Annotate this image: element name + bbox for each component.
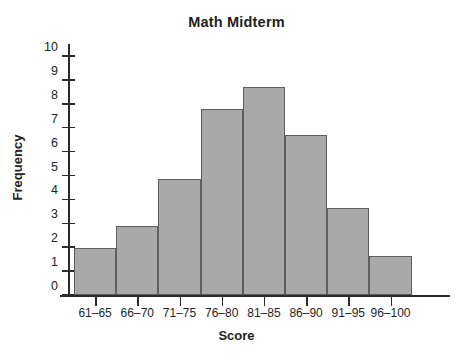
y-tick-label: 0 (32, 279, 58, 293)
x-tick-label: 96–100 (365, 306, 417, 320)
plot-area: 012345678910 61–6566–7071–7576–8081–8586… (0, 0, 473, 359)
histogram-bar (285, 135, 327, 295)
y-tick-label: 10 (32, 40, 58, 54)
y-tick-mark (62, 127, 75, 129)
y-tick-mark (62, 103, 75, 105)
x-tick-mark (137, 296, 139, 306)
x-tick-mark (306, 296, 308, 306)
y-tick-mark (62, 223, 75, 225)
y-tick-label: 2 (32, 231, 58, 245)
y-tick-label: 5 (32, 160, 58, 174)
y-tick-label: 8 (32, 88, 58, 102)
y-tick-mark (62, 175, 75, 177)
x-tick-mark (264, 296, 266, 306)
histogram-bar (327, 208, 369, 295)
histogram-bar (74, 248, 116, 295)
histogram-bar (158, 179, 200, 295)
y-tick-label: 3 (32, 207, 58, 221)
y-tick-mark (62, 55, 75, 57)
y-axis-line (68, 44, 70, 297)
y-tick-mark (62, 199, 75, 201)
y-tick-label: 4 (32, 183, 58, 197)
y-tick-label: 7 (32, 112, 58, 126)
y-axis-title: Frequency (10, 118, 25, 218)
histogram-bar (243, 87, 285, 295)
histogram-bar (116, 226, 158, 295)
y-tick-mark (62, 151, 75, 153)
x-tick-mark (348, 296, 350, 306)
x-tick-mark (391, 296, 393, 306)
histogram-figure: Math Midterm 012345678910 61–6566–7071–7… (0, 0, 473, 359)
x-tick-mark (222, 296, 224, 306)
y-tick-label: 6 (32, 136, 58, 150)
x-tick-mark (180, 296, 182, 306)
x-axis-title: Score (0, 328, 473, 343)
histogram-bar (201, 109, 243, 295)
y-tick-label: 9 (32, 64, 58, 78)
x-tick-mark (95, 296, 97, 306)
y-tick-mark (62, 79, 75, 81)
y-tick-label: 1 (32, 255, 58, 269)
histogram-bar (369, 256, 411, 295)
